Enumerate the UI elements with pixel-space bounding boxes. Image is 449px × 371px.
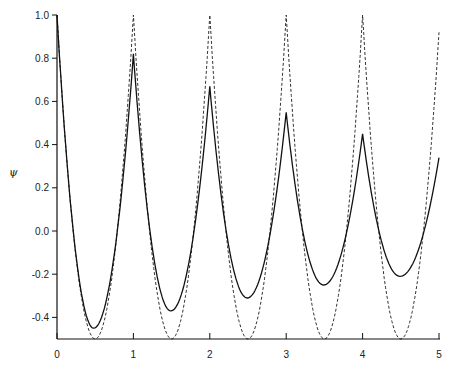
y-ticks: 1.00.80.60.40.20.0-0.2-0.4 xyxy=(32,10,57,323)
y-tick-label: 0.4 xyxy=(35,139,49,150)
x-tick-label: 3 xyxy=(283,349,289,360)
x-tick-label: 4 xyxy=(360,349,366,360)
x-tick-label: 2 xyxy=(207,349,213,360)
solid-series-line xyxy=(57,15,439,328)
chart: 1.00.80.60.40.20.0-0.2-0.4 012345 ψ xyxy=(0,0,449,371)
y-tick-label: 0.2 xyxy=(35,182,49,193)
x-tick-label: 5 xyxy=(436,349,442,360)
plot-area xyxy=(57,15,439,339)
dashed-series-line xyxy=(57,15,439,339)
y-tick-label: -0.2 xyxy=(32,269,50,280)
x-tick-label: 0 xyxy=(54,349,60,360)
y-axis-label: ψ xyxy=(9,166,18,179)
y-tick-label: -0.4 xyxy=(32,312,50,323)
y-tick-label: 1.0 xyxy=(35,10,49,21)
y-tick-label: 0.8 xyxy=(35,53,49,64)
y-tick-label: 0.6 xyxy=(35,96,49,107)
y-tick-label: 0.0 xyxy=(35,226,49,237)
x-tick-label: 1 xyxy=(131,349,137,360)
x-ticks: 012345 xyxy=(54,333,442,360)
